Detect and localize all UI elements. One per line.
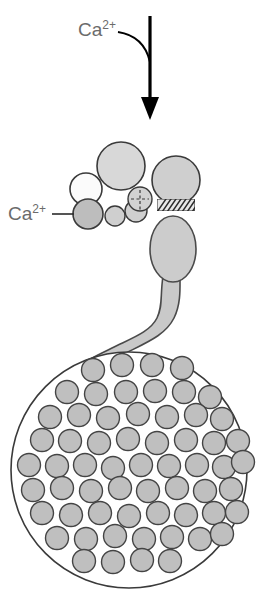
intracellular-vesicle: [211, 408, 234, 431]
small-chain-circle-1: [105, 206, 125, 226]
intracellular-vesicle: [131, 549, 154, 572]
intracellular-vesicle: [31, 502, 54, 525]
intracellular-vesicle: [75, 528, 98, 551]
intracellular-vesicle: [51, 477, 74, 500]
intracellular-vesicle: [175, 429, 198, 452]
intracellular-vesicle: [46, 455, 69, 478]
calcium-influx-arrow-head: [141, 97, 159, 120]
intracellular-vesicle: [161, 526, 184, 549]
calcium-vesicle-fusion-diagram: Ca2+: [0, 0, 259, 591]
intracellular-vesicle: [141, 354, 164, 377]
intracellular-vesicle: [80, 480, 103, 503]
intracellular-vesicle: [104, 525, 127, 548]
intracellular-vesicle: [118, 505, 141, 528]
intracellular-vesicle: [226, 501, 249, 524]
calcium-influx-label: Ca2+: [78, 18, 116, 40]
intracellular-vesicle: [133, 528, 156, 551]
intracellular-vesicle: [59, 430, 82, 453]
intracellular-vesicle: [111, 354, 134, 377]
intracellular-vesicle: [85, 383, 108, 406]
intracellular-vesicle: [82, 359, 105, 382]
intracellular-vesicle: [56, 381, 79, 404]
intracellular-vesicle: [60, 504, 83, 527]
intracellular-vesicle: [130, 454, 153, 477]
intracellular-vesicle: [203, 502, 226, 525]
intracellular-vesicle: [175, 504, 198, 527]
intracellular-vesicle: [102, 551, 125, 574]
diagram-canvas: Ca2+: [0, 0, 259, 591]
intracellular-vesicle: [158, 455, 181, 478]
intracellular-vesicle: [74, 454, 97, 477]
intracellular-vesicle: [159, 550, 182, 573]
intracellular-vesicle: [232, 451, 255, 474]
intracellular-vesicle: [156, 406, 179, 429]
intracellular-vesicle: [211, 523, 234, 546]
calcium-binding-label: Ca2+: [8, 202, 46, 224]
intracellular-vesicle: [31, 429, 54, 452]
intracellular-vesicle: [185, 404, 208, 427]
large-upper-granule: [97, 142, 145, 190]
secretory-cell-body-group: [11, 352, 255, 588]
calcium-influx-group: Ca2+: [78, 16, 159, 120]
intracellular-vesicle: [68, 404, 91, 427]
intracellular-vesicle: [115, 381, 138, 404]
intracellular-vesicle: [18, 454, 41, 477]
intracellular-vesicle: [203, 432, 226, 455]
intracellular-vesicle: [39, 406, 62, 429]
intracellular-vesicle: [186, 454, 209, 477]
intracellular-vesicle: [227, 430, 250, 453]
fusing-granule-flask: [150, 216, 196, 282]
intracellular-vesicle: [89, 502, 112, 525]
intracellular-vesicle: [97, 407, 120, 430]
intracellular-vesicle: [166, 477, 189, 500]
intracellular-vesicle: [171, 357, 194, 380]
intracellular-vesicle: [173, 381, 196, 404]
intracellular-vesicle: [46, 527, 69, 550]
intracellular-vesicle: [146, 432, 169, 455]
intracellular-vesicle: [220, 478, 243, 501]
intracellular-vesicle: [73, 550, 96, 573]
intracellular-vesicle: [22, 479, 45, 502]
intracellular-vesicle: [144, 380, 167, 403]
intracellular-vesicle: [88, 432, 111, 455]
intracellular-vesicle: [189, 528, 212, 551]
calcium-influx-curve: [118, 32, 150, 62]
intracellular-vesicle: [117, 428, 140, 451]
intracellular-vesicle: [109, 477, 132, 500]
intracellular-vesicle: [127, 403, 150, 426]
intracellular-vesicle: [194, 480, 217, 503]
right-upper-granule: [152, 156, 200, 204]
intracellular-vesicle: [137, 480, 160, 503]
ca-binding-circle: [73, 199, 103, 229]
intracellular-vesicle: [147, 502, 170, 525]
